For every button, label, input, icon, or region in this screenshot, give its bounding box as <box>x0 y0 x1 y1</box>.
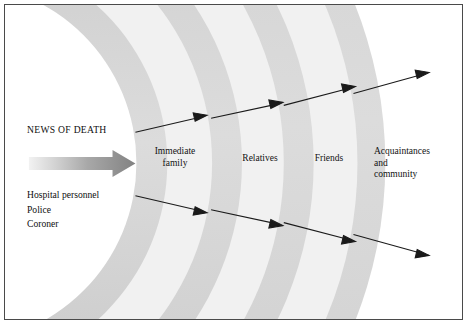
source-item-police: Police <box>27 203 99 218</box>
news-sources-list: Hospital personnel Police Coroner <box>27 188 99 232</box>
ring-label-friends: Friends <box>303 153 355 165</box>
news-of-death-label: NEWS OF DEATH <box>27 124 107 135</box>
diagram-news-of-death-diffusion: NEWS OF DEATH Hospital personnel Police … <box>0 0 469 326</box>
diagram-frame: NEWS OF DEATH Hospital personnel Police … <box>4 4 463 320</box>
ring-label-acquaintances-and-community: Acquaintances and community <box>374 146 452 181</box>
source-item-hospital-personnel: Hospital personnel <box>27 188 99 203</box>
ring-label-immediate-family: Immediate family <box>145 146 205 169</box>
source-item-coroner: Coroner <box>27 217 99 232</box>
ring-label-relatives: Relatives <box>230 153 290 165</box>
